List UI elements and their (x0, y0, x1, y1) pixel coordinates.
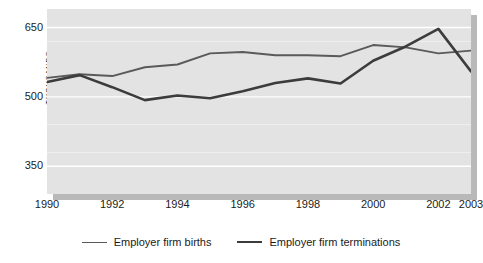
x-tick-label-1994: 1994 (165, 198, 189, 210)
legend-line-swatch (82, 242, 107, 243)
series-line-terminations (47, 29, 471, 100)
plot-area (47, 9, 471, 194)
x-tick-label-2000: 2000 (361, 198, 385, 210)
plot-container (47, 9, 471, 194)
chart-legend: Employer firm birthsEmployer firm termin… (0, 236, 482, 248)
y-tick-label-350: 350 (9, 159, 43, 171)
legend-item-births[interactable]: Employer firm births (82, 236, 212, 248)
x-tick-label-1992: 1992 (100, 198, 124, 210)
y-axis: THOUSANDS 650500350 (0, 0, 43, 203)
y-tick-label-650: 650 (9, 21, 43, 33)
x-tick-label-2003: 2003 (459, 198, 483, 210)
x-tick-label-1998: 1998 (296, 198, 320, 210)
x-tick-label-1990: 1990 (35, 198, 59, 210)
legend-item-terminations[interactable]: Employer firm terminations (237, 236, 400, 248)
x-tick-label-1996: 1996 (230, 198, 254, 210)
plot-canvas (47, 9, 471, 194)
legend-label: Employer firm terminations (269, 236, 400, 248)
x-tick-label-2002: 2002 (426, 198, 450, 210)
legend-line-swatch (237, 241, 262, 243)
legend-label: Employer firm births (114, 236, 212, 248)
series-line-births (47, 45, 471, 78)
y-tick-label-500: 500 (9, 90, 43, 102)
x-axis-tick-labels: 19901992199419961998200020022003 (47, 198, 471, 216)
